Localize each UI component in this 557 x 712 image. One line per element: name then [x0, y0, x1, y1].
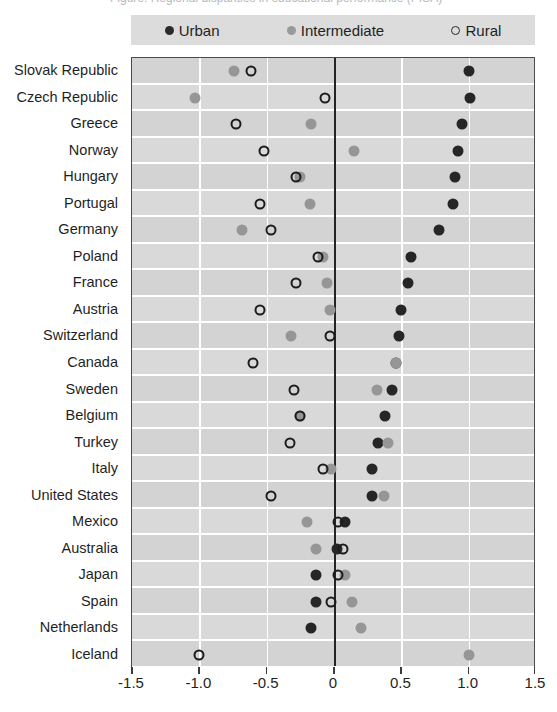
category-label-australia: Australia — [62, 540, 118, 556]
plot-area — [131, 57, 535, 667]
category-label-italy: Italy — [91, 460, 118, 476]
category-label-netherlands: Netherlands — [40, 619, 118, 635]
x-axis-tick — [266, 667, 268, 674]
data-point-rural[interactable] — [312, 251, 323, 262]
data-point-rural[interactable] — [230, 119, 241, 130]
category-label-slovak-republic: Slovak Republic — [14, 62, 118, 78]
data-point-rural[interactable] — [326, 596, 337, 607]
x-axis-tick — [333, 667, 335, 674]
x-axis-tick-label: 1.5 — [525, 674, 546, 691]
data-point-intermediate[interactable] — [355, 623, 366, 634]
data-point-intermediate[interactable] — [346, 596, 357, 607]
data-point-intermediate[interactable] — [322, 278, 333, 289]
data-point-intermediate[interactable] — [378, 490, 389, 501]
cropped-title-text: Figure: Regional disparities in educatio… — [110, 0, 442, 5]
data-point-urban[interactable] — [386, 384, 397, 395]
plot-row-band — [132, 270, 534, 297]
data-point-intermediate[interactable] — [302, 517, 313, 528]
x-axis-tick-label: -1.0 — [185, 674, 211, 691]
x-axis-tick — [468, 667, 470, 674]
data-point-intermediate[interactable] — [311, 543, 322, 554]
data-point-urban[interactable] — [306, 623, 317, 634]
data-point-intermediate[interactable] — [190, 92, 201, 103]
data-point-intermediate[interactable] — [463, 649, 474, 660]
legend-item-urban[interactable]: Urban — [165, 22, 220, 39]
data-point-rural[interactable] — [333, 570, 344, 581]
legend-item-intermediate[interactable]: Intermediate — [287, 22, 384, 39]
category-label-switzerland: Switzerland — [43, 327, 118, 343]
data-point-urban[interactable] — [465, 92, 476, 103]
data-point-urban[interactable] — [393, 331, 404, 342]
plot-row-band — [132, 403, 534, 430]
data-point-rural[interactable] — [265, 225, 276, 236]
data-point-rural[interactable] — [291, 172, 302, 183]
data-point-rural[interactable] — [254, 304, 265, 315]
category-label-turkey: Turkey — [74, 434, 118, 450]
data-point-rural[interactable] — [265, 490, 276, 501]
data-point-urban[interactable] — [366, 464, 377, 475]
data-point-intermediate[interactable] — [304, 198, 315, 209]
data-point-rural[interactable] — [318, 464, 329, 475]
data-point-urban[interactable] — [447, 198, 458, 209]
x-axis-tick-labels: -1.5-1.0-0.500.51.01.5 — [131, 674, 535, 698]
data-point-urban[interactable] — [311, 596, 322, 607]
data-point-intermediate[interactable] — [390, 358, 401, 369]
data-point-urban[interactable] — [452, 145, 463, 156]
category-label-canada: Canada — [67, 354, 118, 370]
filled-gray-circle-icon — [287, 26, 296, 35]
legend-label: Intermediate — [301, 22, 384, 39]
vertical-gridline — [401, 58, 403, 666]
x-axis-tick — [131, 667, 133, 674]
legend-item-rural[interactable]: Rural — [451, 22, 501, 39]
data-point-rural[interactable] — [295, 411, 306, 422]
data-point-urban[interactable] — [403, 278, 414, 289]
data-point-rural[interactable] — [291, 278, 302, 289]
data-point-intermediate[interactable] — [237, 225, 248, 236]
data-point-rural[interactable] — [284, 437, 295, 448]
data-point-urban[interactable] — [366, 490, 377, 501]
legend-label: Urban — [179, 22, 220, 39]
data-point-urban[interactable] — [380, 411, 391, 422]
category-label-germany: Germany — [58, 221, 118, 237]
data-point-rural[interactable] — [288, 384, 299, 395]
data-point-rural[interactable] — [194, 649, 205, 660]
x-axis-tick-label: -1.5 — [118, 674, 144, 691]
data-point-intermediate[interactable] — [372, 384, 383, 395]
plot-row-band — [132, 350, 534, 377]
data-point-rural[interactable] — [324, 331, 335, 342]
data-point-rural[interactable] — [258, 145, 269, 156]
data-point-urban[interactable] — [450, 172, 461, 183]
category-label-austria: Austria — [73, 301, 118, 317]
data-point-intermediate[interactable] — [382, 437, 393, 448]
data-point-intermediate[interactable] — [229, 66, 240, 77]
data-point-rural[interactable] — [254, 198, 265, 209]
data-point-rural[interactable] — [248, 358, 259, 369]
data-point-urban[interactable] — [463, 66, 474, 77]
x-axis-tick-label: 1.0 — [457, 674, 478, 691]
data-point-rural[interactable] — [333, 517, 344, 528]
data-point-urban[interactable] — [405, 251, 416, 262]
data-point-rural[interactable] — [338, 543, 349, 554]
legend-label: Rural — [465, 22, 501, 39]
data-point-intermediate[interactable] — [306, 119, 317, 130]
filled-dark-circle-icon — [165, 26, 174, 35]
category-label-poland: Poland — [73, 248, 118, 264]
plot-row-band — [132, 111, 534, 138]
plot-row-band — [132, 482, 534, 509]
data-point-urban[interactable] — [456, 119, 467, 130]
category-label-mexico: Mexico — [72, 513, 118, 529]
chart-legend: UrbanIntermediateRural — [131, 15, 535, 45]
category-label-japan: Japan — [78, 566, 118, 582]
data-point-intermediate[interactable] — [324, 304, 335, 315]
data-point-rural[interactable] — [319, 92, 330, 103]
data-point-urban[interactable] — [434, 225, 445, 236]
data-point-urban[interactable] — [396, 304, 407, 315]
data-point-intermediate[interactable] — [349, 145, 360, 156]
plot-row-band — [132, 376, 534, 403]
data-point-rural[interactable] — [245, 66, 256, 77]
data-point-urban[interactable] — [311, 570, 322, 581]
category-label-norway: Norway — [69, 142, 118, 158]
data-point-intermediate[interactable] — [285, 331, 296, 342]
category-label-hungary: Hungary — [63, 168, 118, 184]
category-label-spain: Spain — [81, 593, 118, 609]
